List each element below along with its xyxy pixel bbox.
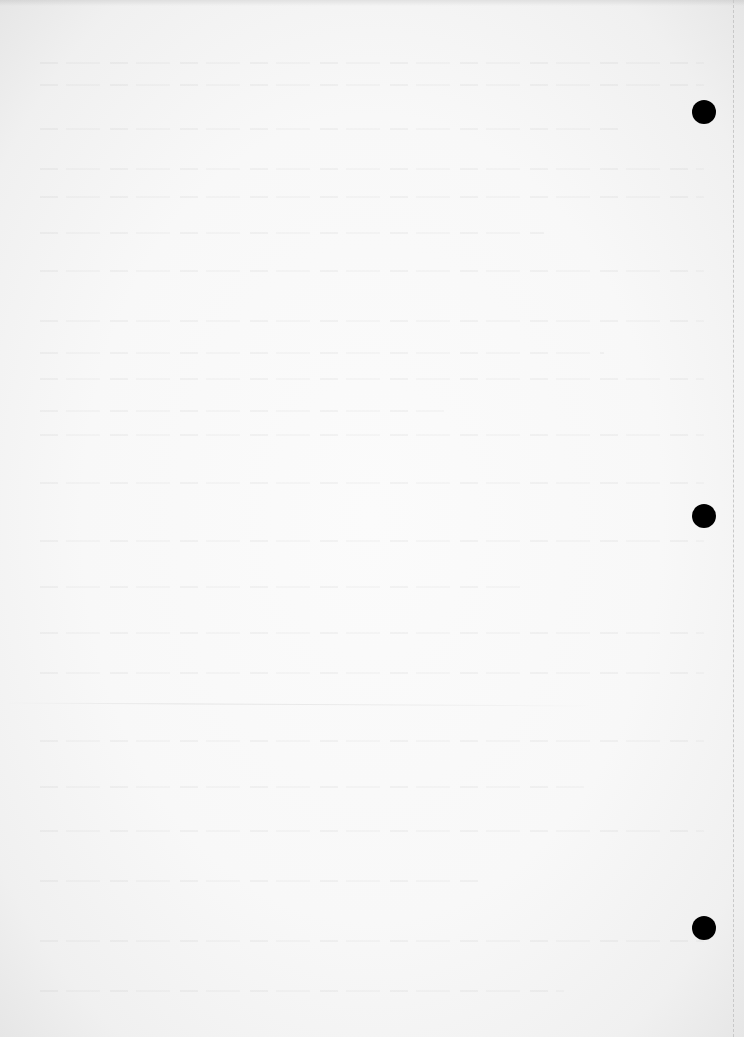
bleed-through-line	[40, 128, 624, 130]
bleed-through-line	[40, 270, 704, 272]
bleed-through-line	[40, 232, 544, 234]
bleed-through-line	[40, 196, 704, 198]
bleed-through-line	[40, 84, 704, 86]
bleed-through-line	[40, 940, 704, 942]
bleed-through-line	[40, 540, 704, 542]
bleed-through-line	[40, 830, 704, 832]
bleed-through-line	[40, 672, 704, 674]
page-edge-line	[733, 0, 734, 1037]
bleed-through-line	[40, 410, 444, 412]
bleed-through-line	[40, 62, 704, 64]
bleed-through-line	[40, 786, 584, 788]
bleed-through-line	[40, 482, 704, 484]
bleed-through-line	[40, 990, 564, 992]
bleed-through-line	[40, 740, 704, 742]
scanned-page	[0, 0, 744, 1037]
bleed-through-line	[40, 168, 704, 170]
bleed-through-line	[40, 434, 704, 436]
punch-hole-top	[692, 100, 716, 124]
bleed-through-line	[40, 352, 604, 354]
paper-crease	[0, 702, 600, 706]
bleed-through-line	[40, 378, 704, 380]
punch-hole-bottom	[692, 916, 716, 940]
bleed-through-line	[40, 880, 484, 882]
scan-top-shadow	[0, 0, 744, 6]
bleed-through-line	[40, 320, 704, 322]
bleed-through-line	[40, 586, 524, 588]
punch-hole-middle	[692, 504, 716, 528]
bleed-through-line	[40, 632, 704, 634]
